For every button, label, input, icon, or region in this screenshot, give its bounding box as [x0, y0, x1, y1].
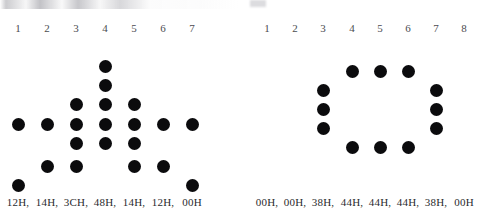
matrix-dot — [374, 65, 387, 78]
matrix-dot — [12, 179, 25, 192]
left-dot-grid — [0, 0, 242, 220]
matrix-dot — [128, 137, 141, 150]
matrix-dot — [430, 84, 443, 97]
matrix-dot — [128, 118, 141, 131]
matrix-dot — [70, 137, 83, 150]
matrix-dot — [99, 60, 112, 73]
matrix-dot — [374, 141, 387, 154]
matrix-dot — [41, 118, 54, 131]
matrix-dot — [317, 103, 330, 116]
matrix-dot — [430, 122, 443, 135]
matrix-dot — [317, 84, 330, 97]
matrix-dot — [430, 103, 443, 116]
matrix-dot — [12, 118, 25, 131]
matrix-dot — [70, 118, 83, 131]
matrix-dot — [317, 122, 330, 135]
matrix-dot — [186, 179, 199, 192]
matrix-dot — [157, 118, 170, 131]
matrix-dot — [128, 160, 141, 173]
matrix-dot — [157, 160, 170, 173]
right-dot-grid — [248, 0, 484, 220]
right-dot-matrix-panel: 12345678 00H,00H,38H,44H,44H,44H,38H,00H — [248, 0, 484, 220]
matrix-dot — [346, 141, 359, 154]
matrix-dot — [41, 160, 54, 173]
matrix-dot — [128, 98, 141, 111]
matrix-dot — [99, 98, 112, 111]
left-dot-matrix-panel: 1234567 12H,14H,3CH,48H,14H,12H,00H — [0, 0, 242, 220]
matrix-dot — [186, 118, 199, 131]
matrix-dot — [402, 141, 415, 154]
matrix-dot — [70, 98, 83, 111]
matrix-dot — [346, 65, 359, 78]
matrix-dot — [402, 65, 415, 78]
matrix-dot — [99, 79, 112, 92]
matrix-dot — [70, 160, 83, 173]
matrix-dot — [99, 118, 112, 131]
matrix-dot — [99, 137, 112, 150]
